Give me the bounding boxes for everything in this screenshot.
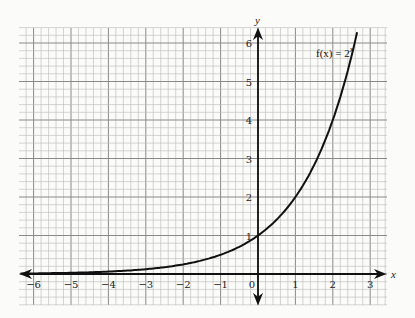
y-tick-label: 6 <box>246 38 252 49</box>
y-tick-label: 2 <box>246 192 252 203</box>
exponential-graph: −6−5−4−3−2−10123123456 x y f(x) = 2x <box>0 0 415 318</box>
x-tick-label: −3 <box>138 279 153 290</box>
x-tick-label: 3 <box>367 279 373 290</box>
function-label-base: f(x) = 2 <box>316 47 350 60</box>
x-tick-label: −5 <box>64 279 79 290</box>
x-tick-label: 0 <box>249 279 255 290</box>
x-tick-label: 1 <box>292 279 298 290</box>
x-tick-label: −2 <box>176 279 191 290</box>
x-tick-label: 2 <box>330 279 336 290</box>
function-label-exponent: x <box>349 45 354 54</box>
function-label: f(x) = 2x <box>316 45 354 60</box>
grid <box>19 28 387 305</box>
y-tick-label: 4 <box>246 115 252 126</box>
y-tick-label: 5 <box>246 77 252 88</box>
x-tick-label: −6 <box>26 279 41 290</box>
x-tick-label: −4 <box>101 279 116 290</box>
y-tick-label: 3 <box>246 154 252 165</box>
x-tick-label: −1 <box>213 279 228 290</box>
y-tick-label: 1 <box>246 231 252 242</box>
y-axis-label: y <box>254 14 260 26</box>
x-axis-label: x <box>390 268 396 280</box>
